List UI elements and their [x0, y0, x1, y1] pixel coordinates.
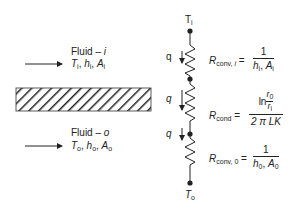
eq-R-sub: conv,: [216, 60, 234, 67]
fluid-outer-title-text: Fluid –: [71, 127, 104, 138]
eq-denominator: h0, A0: [253, 158, 279, 172]
fluid-outer-title: Fluid – o: [71, 127, 109, 138]
eq-r-cond-lhs: Rcond =: [209, 110, 240, 124]
eq-R-sub: cond: [216, 115, 231, 122]
ln: ln: [259, 96, 267, 107]
node-top-label: Ti: [185, 14, 193, 28]
fluid-inner-title-var: i: [104, 46, 106, 57]
eq-equals: =: [238, 153, 247, 164]
eq-equals: =: [236, 55, 245, 66]
eq-r-conv-outer-lhs: Rconv, 0 =: [209, 153, 247, 167]
node-bottom-label: To: [185, 189, 195, 203]
r0-sub: 0: [269, 93, 273, 100]
node-top-sub: i: [191, 19, 193, 26]
fraction-bar: [249, 114, 283, 115]
eq-R-sub: conv, 0: [216, 158, 238, 165]
fluid-inner-A-sub: i: [104, 63, 106, 70]
fluid-inner-A: A: [97, 58, 104, 69]
node-bottom: [187, 180, 192, 185]
fluid-outer-A-sub: o: [108, 145, 112, 152]
fluid-outer-properties: To, ho, Ao: [71, 140, 112, 154]
node-bottom-sub: o: [191, 194, 195, 201]
fluid-outer-title-var: o: [104, 127, 110, 138]
eq-r-conv-outer-fraction: 1 h0, A0: [253, 144, 279, 172]
heat-flow-label-1: q: [166, 51, 172, 62]
wall-hatched: [16, 88, 151, 111]
heat-flow-label-3: q: [166, 128, 172, 139]
eq-equals: =: [231, 110, 240, 121]
fraction-bar: [253, 156, 279, 157]
resistor-cond: [185, 79, 195, 134]
eq-denominator: hi, Ai: [253, 60, 274, 74]
fraction-bar: [253, 58, 274, 59]
eq-r-conv-inner-fraction: 1 hi, Ai: [253, 46, 274, 74]
fluid-inner-title-text: Fluid –: [71, 46, 104, 57]
resistor-conv-outer: [185, 134, 195, 183]
den-A-sub: 0: [275, 163, 279, 170]
fluid-inner-properties: Ti, hi, Ai: [71, 58, 105, 72]
eq-r-conv-inner-lhs: Rconv, i =: [209, 55, 245, 69]
ri-sub: i: [271, 105, 273, 112]
den-A-sub: i: [272, 65, 274, 72]
den-A: A: [268, 158, 275, 169]
heat-flow-label-2: q: [166, 93, 172, 104]
resistor-conv-inner: [185, 31, 195, 78]
eq-numerator: 1: [261, 46, 267, 57]
fluid-inner-title: Fluid – i: [71, 46, 106, 57]
eq-denominator: 2 π LK: [251, 116, 281, 127]
eq-r-cond-fraction: ln r0 ri 2 π LK: [249, 90, 283, 127]
eq-numerator: 1: [263, 144, 269, 155]
eq-numerator: ln r0 ri: [259, 90, 274, 113]
